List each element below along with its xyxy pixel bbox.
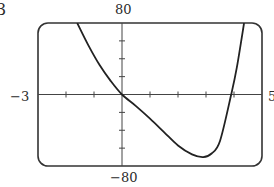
- axes: [38, 23, 262, 166]
- function-curve: [77, 23, 244, 157]
- graph-plot: [0, 0, 274, 187]
